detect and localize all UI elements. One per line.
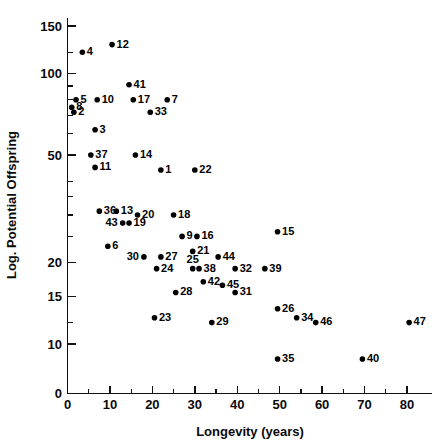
point-marker bbox=[171, 212, 177, 218]
point-marker bbox=[80, 49, 86, 55]
point-marker bbox=[105, 243, 111, 249]
point-label: 32 bbox=[240, 262, 252, 274]
data-point[interactable]: 32 bbox=[232, 262, 252, 274]
y-tick-label: 150 bbox=[40, 19, 62, 34]
data-point[interactable]: 47 bbox=[406, 315, 426, 327]
point-marker bbox=[158, 254, 164, 260]
point-label: 30 bbox=[127, 250, 139, 262]
data-point[interactable]: 28 bbox=[173, 285, 193, 297]
x-tick-label: 80 bbox=[400, 397, 414, 412]
data-point[interactable]: 18 bbox=[171, 208, 191, 220]
point-marker bbox=[275, 356, 281, 362]
point-label: 7 bbox=[172, 93, 178, 105]
data-point[interactable]: 9 bbox=[179, 229, 192, 241]
data-point[interactable]: 36 bbox=[97, 204, 117, 216]
data-point[interactable]: 42 bbox=[201, 275, 221, 287]
data-point[interactable]: 45 bbox=[220, 278, 240, 290]
data-point[interactable]: 34 bbox=[294, 311, 314, 323]
data-point[interactable]: 38 bbox=[196, 262, 216, 274]
point-marker bbox=[360, 356, 366, 362]
data-point[interactable]: 22 bbox=[192, 163, 212, 175]
y-axis-ticks bbox=[68, 26, 76, 344]
data-point[interactable]: 12 bbox=[109, 38, 129, 50]
data-point[interactable]: 4 bbox=[80, 45, 94, 57]
data-point[interactable]: 3 bbox=[92, 123, 105, 135]
point-label: 1 bbox=[165, 163, 171, 175]
data-point[interactable]: 7 bbox=[164, 93, 177, 105]
point-marker bbox=[313, 320, 319, 326]
data-point[interactable]: 16 bbox=[194, 229, 214, 241]
data-point[interactable]: 37 bbox=[88, 148, 108, 160]
point-label: 29 bbox=[216, 315, 228, 327]
point-label: 15 bbox=[282, 225, 294, 237]
point-label: 38 bbox=[204, 262, 216, 274]
point-marker bbox=[147, 109, 153, 115]
data-point[interactable]: 26 bbox=[275, 302, 295, 314]
data-point[interactable]: 30 bbox=[127, 250, 147, 262]
point-marker bbox=[109, 42, 115, 48]
point-marker bbox=[114, 208, 120, 214]
point-marker bbox=[130, 97, 136, 103]
point-label: 10 bbox=[102, 93, 114, 105]
point-marker bbox=[201, 279, 207, 285]
point-marker bbox=[126, 82, 132, 88]
point-label: 4 bbox=[87, 45, 94, 57]
data-point[interactable]: 44 bbox=[215, 250, 235, 262]
point-label: 37 bbox=[95, 148, 107, 160]
point-label: 35 bbox=[282, 352, 294, 364]
point-label: 19 bbox=[134, 216, 146, 228]
x-tick-label: 10 bbox=[103, 397, 117, 412]
point-label: 43 bbox=[105, 216, 117, 228]
data-point[interactable]: 27 bbox=[158, 250, 178, 262]
data-point[interactable]: 40 bbox=[360, 352, 380, 364]
data-point[interactable]: 39 bbox=[262, 262, 282, 274]
data-point[interactable]: 6 bbox=[105, 239, 118, 251]
point-marker bbox=[209, 320, 215, 326]
data-point[interactable]: 13 bbox=[114, 204, 134, 216]
y-tick-label: 20 bbox=[48, 255, 62, 270]
point-marker bbox=[232, 266, 238, 272]
point-marker bbox=[133, 152, 139, 158]
data-point[interactable]: 14 bbox=[133, 148, 153, 160]
point-marker bbox=[152, 315, 158, 321]
data-point[interactable]: 15 bbox=[275, 225, 295, 237]
data-point[interactable]: 41 bbox=[126, 78, 146, 90]
point-label: 16 bbox=[201, 229, 213, 241]
data-point[interactable]: 11 bbox=[92, 160, 111, 172]
data-point[interactable]: 43 bbox=[105, 216, 125, 228]
y-tick-label: 50 bbox=[48, 148, 62, 163]
point-marker bbox=[71, 109, 77, 115]
point-marker bbox=[215, 254, 221, 260]
data-point[interactable]: 33 bbox=[147, 105, 167, 117]
data-point[interactable]: 35 bbox=[275, 352, 295, 364]
point-label: 24 bbox=[161, 262, 174, 274]
y-tick-label: 100 bbox=[40, 66, 62, 81]
point-marker bbox=[275, 229, 281, 235]
point-marker bbox=[158, 167, 164, 173]
point-label: 2 bbox=[78, 105, 84, 117]
data-point[interactable]: 46 bbox=[313, 315, 333, 327]
point-marker bbox=[194, 234, 200, 240]
data-point[interactable]: 1 bbox=[158, 163, 171, 175]
data-point[interactable]: 17 bbox=[130, 93, 150, 105]
data-point[interactable]: 23 bbox=[152, 311, 172, 323]
data-point[interactable]: 24 bbox=[154, 262, 174, 274]
x-tick-label: 70 bbox=[357, 397, 371, 412]
point-marker bbox=[192, 167, 198, 173]
point-label: 14 bbox=[140, 148, 153, 160]
point-marker bbox=[196, 266, 202, 272]
point-marker bbox=[275, 306, 281, 312]
point-label: 25 bbox=[187, 253, 199, 265]
point-label: 13 bbox=[121, 204, 133, 216]
data-point-group: 4124151017782333371411122361320184319916… bbox=[69, 38, 426, 364]
x-tick-label: 40 bbox=[230, 397, 244, 412]
data-point[interactable]: 19 bbox=[126, 216, 146, 228]
data-point[interactable]: 10 bbox=[94, 93, 114, 105]
point-marker bbox=[262, 266, 268, 272]
point-label: 45 bbox=[227, 278, 239, 290]
point-label: 44 bbox=[223, 250, 236, 262]
point-label: 46 bbox=[320, 315, 332, 327]
point-marker bbox=[97, 208, 103, 214]
point-marker bbox=[154, 266, 160, 272]
data-point[interactable]: 29 bbox=[209, 315, 229, 327]
